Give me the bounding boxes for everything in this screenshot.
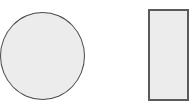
rectangle-shape <box>148 9 189 101</box>
diagram-canvas <box>0 0 194 106</box>
circle-shape <box>0 12 85 100</box>
